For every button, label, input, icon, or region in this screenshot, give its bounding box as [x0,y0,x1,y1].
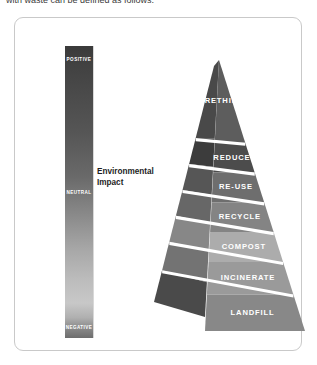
pyramid-tier-label-rethink: RETHINK [174,96,274,105]
pyramid-tier-label-incinerate: INCINERATE [198,273,298,282]
scale-label-neutral: NEUTRAL [65,190,93,195]
pyramid-tier-label-re-use: RE-USE [186,182,286,191]
pyramid-tier-label-reduce: REDUCE [182,153,282,162]
top-caption-text: with waste can be defined as follows: [6,0,236,5]
scale-label-negative: NEGATIVE [65,325,93,330]
figure-frame: POSITIVE NEUTRAL NEGATIVE Environmental … [14,17,302,351]
waste-hierarchy-pyramid: RETHINKREDUCERE-USERECYCLECOMPOSTINCINER… [146,56,312,338]
environmental-impact-scale-bar: POSITIVE NEUTRAL NEGATIVE [65,46,94,338]
pyramid-tier-label-compost: COMPOST [194,242,294,251]
pyramid-tier-label-landfill: LANDFILL [203,308,303,317]
pyramid-tier-label-recycle: RECYCLE [190,212,290,221]
scale-label-positive: POSITIVE [65,57,93,62]
